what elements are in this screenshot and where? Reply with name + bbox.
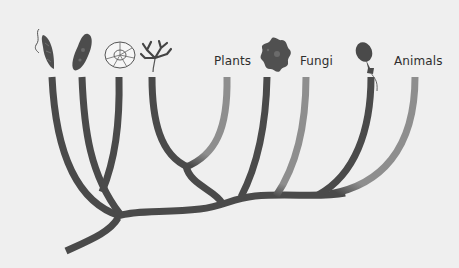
branch-red-algae bbox=[152, 77, 188, 167]
label-fungi: Fungi bbox=[300, 54, 333, 68]
red-algae-icon bbox=[139, 38, 173, 74]
branch-plants bbox=[186, 77, 227, 167]
branch-root bbox=[66, 218, 118, 251]
branch-amoeba bbox=[241, 77, 267, 197]
phylogenetic-tree-diagram: Plants Fungi Animals bbox=[0, 0, 459, 268]
branch-foraminifera bbox=[102, 77, 119, 192]
branch-choanoflagellate bbox=[318, 77, 371, 195]
amoeba-icon bbox=[258, 35, 294, 75]
choanoflagellate-icon bbox=[354, 40, 386, 92]
branch-trunk bbox=[118, 193, 345, 216]
euglena-icon bbox=[31, 25, 61, 75]
label-animals: Animals bbox=[394, 54, 442, 68]
foraminifera-icon bbox=[103, 40, 137, 70]
branch-algae-plants-base bbox=[186, 166, 222, 203]
paramecium-icon bbox=[68, 30, 96, 75]
label-plants: Plants bbox=[214, 54, 251, 68]
branch-fungi bbox=[276, 77, 306, 196]
